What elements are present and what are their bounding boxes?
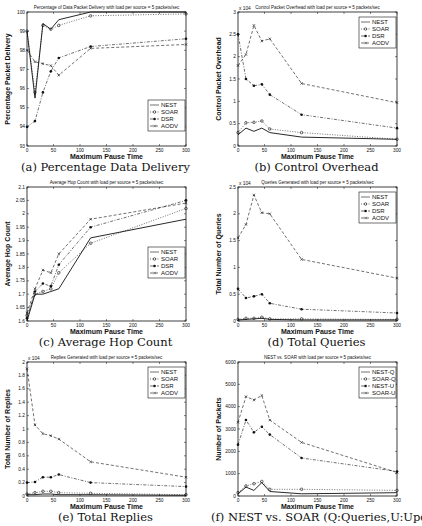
svg-text:1.8: 1.8 <box>18 373 25 378</box>
caption-d: (d) Total Queries <box>211 335 422 349</box>
svg-text:Total Number of Replies: Total Number of Replies <box>4 389 12 469</box>
caption-b: (b) Control Overhead <box>211 160 422 174</box>
svg-text:0: 0 <box>237 148 240 153</box>
svg-text:93: 93 <box>20 144 26 149</box>
chart-title: Replies Generated with load per source =… <box>51 355 163 360</box>
svg-text:x 104: x 104 <box>239 6 251 11</box>
svg-text:0: 0 <box>237 323 240 328</box>
svg-text:0: 0 <box>26 498 29 503</box>
svg-text:1.5: 1.5 <box>229 238 236 243</box>
svg-text:1.8: 1.8 <box>18 265 25 270</box>
chart-e: Replies Generated with load per source =… <box>0 350 211 510</box>
svg-text:DSR: DSR <box>161 383 174 389</box>
svg-text:2.5: 2.5 <box>229 185 236 190</box>
svg-text:0: 0 <box>26 323 29 328</box>
svg-text:NEST-Q: NEST-Q <box>372 369 395 375</box>
svg-text:0.5: 0.5 <box>229 121 236 126</box>
svg-text:2.5: 2.5 <box>229 32 236 37</box>
series-nest <box>27 12 186 98</box>
svg-text:97: 97 <box>20 67 26 72</box>
svg-text:300: 300 <box>393 148 401 153</box>
svg-text:250: 250 <box>155 498 163 503</box>
svg-text:1000: 1000 <box>225 471 236 476</box>
svg-text:Maximum Pause Time: Maximum Pause Time <box>70 328 143 335</box>
svg-text:250: 250 <box>155 323 163 328</box>
svg-text:Maximum Pause Time: Maximum Pause Time <box>70 503 143 510</box>
svg-text:96: 96 <box>20 86 26 91</box>
series-nest-q <box>238 483 397 494</box>
svg-text:Maximum Pause Time: Maximum Pause Time <box>70 153 143 160</box>
svg-text:Total Number of Queries: Total Number of Queries <box>215 213 223 294</box>
legend: NESTSOARDSRAODV <box>148 100 185 131</box>
series-soar <box>26 13 188 94</box>
svg-text:300: 300 <box>182 323 190 328</box>
chart-d: Queries Generated with load per source =… <box>211 175 422 335</box>
chart-b: Control Packet Overhead with load per so… <box>211 0 422 160</box>
svg-text:1.6: 1.6 <box>18 319 25 324</box>
svg-text:SOAR-U: SOAR-U <box>372 390 395 396</box>
svg-text:50: 50 <box>51 323 57 328</box>
chart-panel-b: Control Packet Overhead with load per so… <box>211 0 422 175</box>
svg-text:300: 300 <box>182 498 190 503</box>
svg-text:x 104: x 104 <box>239 181 251 186</box>
svg-text:DSR: DSR <box>372 208 385 214</box>
svg-text:1.5: 1.5 <box>229 77 236 82</box>
svg-text:NEST-U: NEST-U <box>372 383 394 389</box>
svg-text:0.4: 0.4 <box>18 467 25 472</box>
svg-text:0: 0 <box>233 319 236 324</box>
svg-text:4000: 4000 <box>225 404 236 409</box>
svg-text:50: 50 <box>51 498 57 503</box>
svg-text:3000: 3000 <box>225 427 236 432</box>
chart-panel-f: NEST vs. SOAR with load per source = 5 p… <box>211 350 422 525</box>
svg-text:Maximum Pause Time: Maximum Pause Time <box>281 153 354 160</box>
svg-text:x 104: x 104 <box>28 356 40 361</box>
svg-text:Number of Packets: Number of Packets <box>215 397 222 461</box>
svg-text:NEST: NEST <box>161 249 177 255</box>
svg-text:0.5: 0.5 <box>229 292 236 297</box>
svg-text:1.95: 1.95 <box>16 225 26 230</box>
svg-text:1.75: 1.75 <box>16 278 26 283</box>
chart-a: Percentage of Data Packet Delivery with … <box>0 0 211 160</box>
svg-text:100: 100 <box>17 10 25 15</box>
caption-c: (c) Average Hop Count <box>0 335 211 349</box>
chart-panel-a: Percentage of Data Packet Delivery with … <box>0 0 211 175</box>
chart-f: NEST vs. SOAR with load per source = 5 p… <box>211 350 422 510</box>
svg-text:50: 50 <box>262 323 268 328</box>
svg-text:1.85: 1.85 <box>16 252 26 257</box>
svg-text:2.1: 2.1 <box>18 185 25 190</box>
svg-text:0: 0 <box>22 494 25 499</box>
svg-text:DSR: DSR <box>372 33 385 39</box>
legend: NEST-QSOAR-QNEST-USOAR-U <box>359 367 396 398</box>
chart-panel-d: Queries Generated with load per source =… <box>211 175 422 350</box>
svg-text:0: 0 <box>26 148 29 153</box>
svg-text:SOAR: SOAR <box>372 201 390 207</box>
series-dsr <box>237 288 399 315</box>
svg-text:SOAR-Q: SOAR-Q <box>372 376 396 382</box>
svg-text:2: 2 <box>233 211 236 216</box>
svg-text:1.6: 1.6 <box>18 386 25 391</box>
svg-text:0: 0 <box>233 494 236 499</box>
svg-text:0: 0 <box>237 498 240 503</box>
svg-text:SOAR: SOAR <box>161 376 179 382</box>
svg-text:2000: 2000 <box>225 449 236 454</box>
svg-text:50: 50 <box>262 148 268 153</box>
svg-text:2: 2 <box>22 211 25 216</box>
svg-text:300: 300 <box>182 148 190 153</box>
svg-text:0.2: 0.2 <box>18 480 25 485</box>
svg-text:94: 94 <box>20 124 26 129</box>
svg-text:1.65: 1.65 <box>16 305 26 310</box>
svg-text:1.2: 1.2 <box>18 413 25 418</box>
legend: NESTSOARDSRAODV <box>359 192 396 223</box>
svg-text:50: 50 <box>262 498 268 503</box>
svg-text:0: 0 <box>233 144 236 149</box>
legend: NESTSOARDSRAODV <box>148 247 185 278</box>
svg-text:1: 1 <box>233 265 236 270</box>
svg-text:250: 250 <box>366 148 374 153</box>
svg-text:Maximum Pause Time: Maximum Pause Time <box>281 328 354 335</box>
svg-text:SOAR: SOAR <box>161 109 179 115</box>
chart-panel-c: Average Hop Count with load per source =… <box>0 175 211 350</box>
chart-title: Queries Generated with load per source =… <box>261 180 374 185</box>
svg-text:250: 250 <box>155 148 163 153</box>
svg-text:250: 250 <box>366 498 374 503</box>
svg-text:Control Packet Overhead: Control Packet Overhead <box>215 37 222 121</box>
